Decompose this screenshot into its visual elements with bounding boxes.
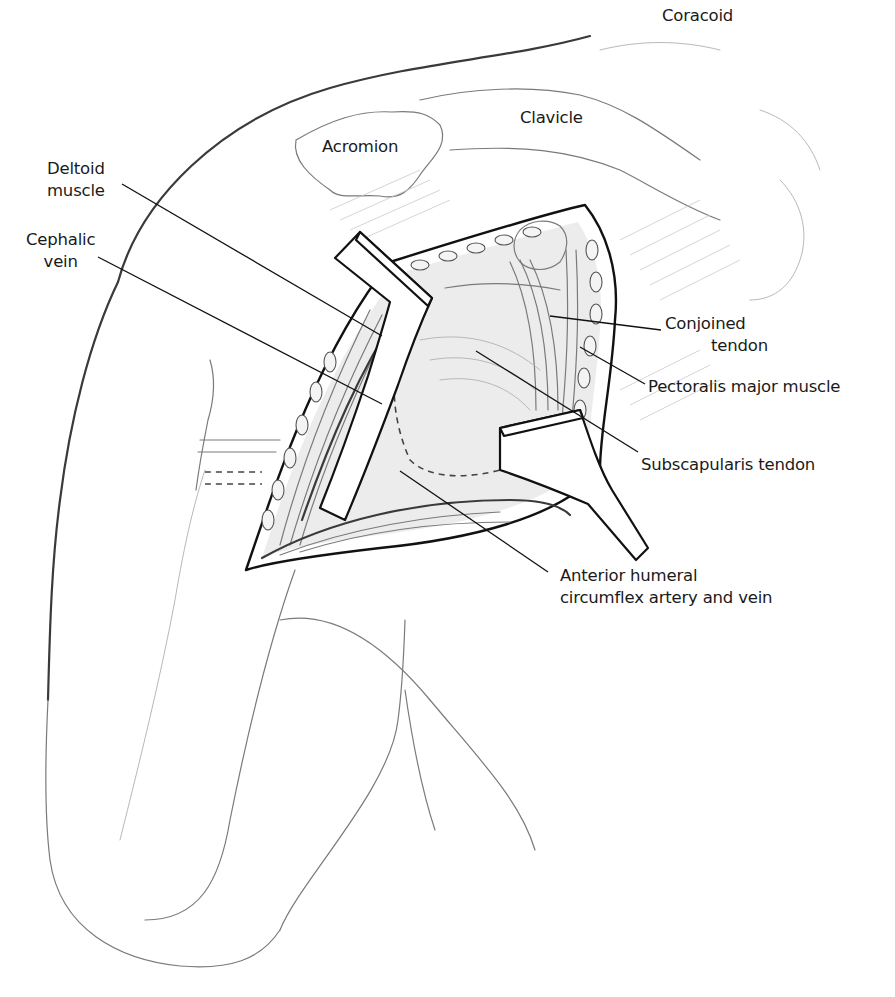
deltoid-groove bbox=[120, 470, 205, 840]
label-cephalic-vein: Cephalic vein bbox=[26, 229, 95, 273]
leader-cephalic bbox=[98, 257, 382, 404]
arm-medial-contour bbox=[280, 620, 405, 930]
biceps-contour bbox=[145, 570, 295, 920]
anatomical-illustration: Coracoid Clavicle Acromion Deltoid muscl… bbox=[0, 0, 895, 997]
lateral-vessels bbox=[196, 360, 280, 490]
forearm-contour bbox=[405, 690, 435, 830]
label-clavicle: Clavicle bbox=[520, 107, 583, 129]
shoulder-drawing bbox=[0, 0, 895, 997]
arm-lateral-contour bbox=[48, 282, 118, 700]
label-subscapularis-tendon: Subscapularis tendon bbox=[641, 454, 815, 476]
label-pectoralis-major: Pectoralis major muscle bbox=[648, 376, 840, 398]
neck-contour bbox=[600, 43, 720, 51]
axillary-fold bbox=[280, 618, 535, 850]
label-coracoid: Coracoid bbox=[662, 5, 733, 27]
elbow-contour bbox=[46, 700, 280, 967]
label-acromion: Acromion bbox=[322, 136, 398, 158]
chest-contour bbox=[760, 110, 820, 170]
coracoid-shadow bbox=[750, 180, 804, 300]
label-conjoined-tendon: Conjoined tendon bbox=[665, 313, 768, 357]
label-deltoid-muscle: Deltoid muscle bbox=[47, 158, 105, 202]
label-anterior-humeral-circumflex: Anterior humeral circumflex artery and v… bbox=[560, 565, 772, 609]
clavicle-lower bbox=[450, 148, 720, 220]
